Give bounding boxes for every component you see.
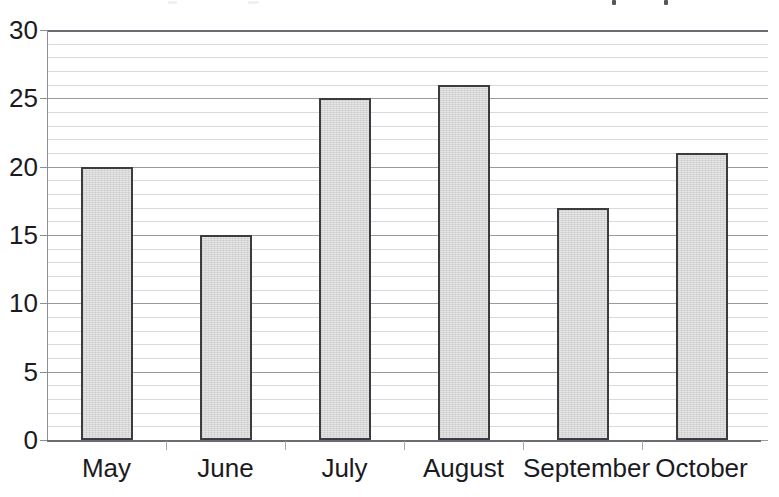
bar-may	[81, 167, 133, 440]
plot-area	[47, 30, 768, 440]
gridline-minor	[47, 331, 768, 332]
gridline-minor	[47, 317, 768, 318]
gridline-minor	[47, 44, 768, 45]
gridline-major	[47, 167, 768, 168]
gridline-major	[47, 372, 768, 373]
gridline-major	[47, 30, 768, 32]
bar-june	[200, 235, 252, 440]
gridline-minor	[47, 290, 768, 291]
x-axis-tick	[404, 441, 405, 450]
gridline-minor	[47, 385, 768, 386]
x-axis-label-august: August	[404, 455, 523, 481]
x-axis-tick	[285, 441, 286, 450]
gridline-major	[47, 98, 768, 99]
y-axis-tick	[40, 235, 47, 236]
x-axis-label-june: June	[166, 455, 285, 481]
y-axis-label: 10	[9, 290, 38, 316]
gridline-minor	[47, 249, 768, 250]
y-axis-label: 20	[9, 154, 38, 180]
y-axis-label: 30	[9, 17, 38, 43]
y-axis-label: 25	[9, 85, 38, 111]
scan-artifact	[612, 0, 616, 5]
scan-artifact	[664, 0, 668, 5]
bar-october	[676, 153, 728, 440]
bar-july	[319, 98, 371, 440]
gridline-major	[47, 235, 768, 236]
y-axis-labels: 302520151050	[0, 0, 38, 497]
x-axis-label-october: October	[642, 455, 761, 481]
bar-august	[438, 85, 490, 440]
gridline-minor	[47, 112, 768, 113]
scan-artifact	[168, 1, 177, 4]
y-axis-label: 5	[24, 359, 38, 385]
gridline-minor	[47, 126, 768, 127]
y-axis-tick	[40, 303, 47, 304]
x-axis-tick	[642, 441, 643, 450]
gridline-minor	[47, 153, 768, 154]
gridline-minor	[47, 426, 768, 427]
y-axis-tick	[40, 372, 47, 373]
gridline-minor	[47, 180, 768, 181]
y-axis-tick	[40, 167, 47, 168]
gridline-minor	[47, 208, 768, 209]
bar-chart: 302520151050 MayJuneJulyAugustSeptemberO…	[0, 0, 779, 497]
gridline-minor	[47, 399, 768, 400]
scan-artifact	[248, 1, 259, 4]
gridline-minor	[47, 139, 768, 140]
gridline-minor	[47, 57, 768, 58]
x-axis-tick	[523, 441, 524, 450]
gridline-minor	[47, 71, 768, 72]
x-axis-label-may: May	[47, 455, 166, 481]
y-axis-tick	[40, 30, 47, 31]
gridline-minor	[47, 262, 768, 263]
gridline-major	[47, 303, 768, 304]
x-axis-label-september: September	[523, 455, 642, 481]
x-axis-label-july: July	[285, 455, 404, 481]
gridline-minor	[47, 358, 768, 359]
gridline-minor	[47, 344, 768, 345]
gridline-minor	[47, 85, 768, 86]
y-axis-tick	[40, 98, 47, 99]
y-axis-label: 15	[9, 222, 38, 248]
y-axis-line	[47, 30, 48, 441]
gridline-minor	[47, 221, 768, 222]
y-axis-label: 0	[24, 427, 38, 453]
bar-september	[557, 208, 609, 440]
gridline-minor	[47, 194, 768, 195]
gridline-minor	[47, 413, 768, 414]
gridline-minor	[47, 276, 768, 277]
y-axis-tick	[40, 440, 47, 441]
x-axis-tick	[166, 441, 167, 450]
